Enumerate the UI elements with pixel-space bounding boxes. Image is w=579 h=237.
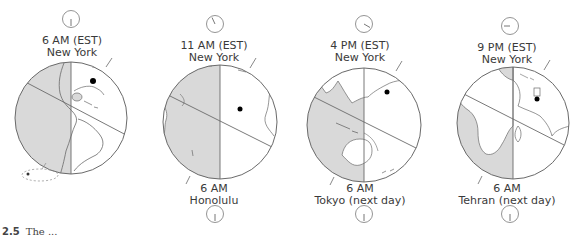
- globe-panel-11am: 11 AM (EST) New York 6 AM Honolulu: [142, 0, 286, 237]
- globe-panel-4pm: 4 PM (EST) New York 6 AM Tokyo (next day…: [288, 0, 432, 237]
- top-label: 11 AM (EST) New York: [142, 40, 286, 64]
- clock-icon-top: [61, 9, 81, 29]
- figure-caption: 2.5The ...: [2, 226, 57, 237]
- top-city: New York: [0, 47, 144, 59]
- top-label: 9 PM (EST) New York: [435, 42, 579, 66]
- top-city: New York: [288, 52, 432, 64]
- globe-pacific: [162, 64, 278, 180]
- clock-icon-bottom: [354, 204, 374, 224]
- globe-americas: [14, 61, 128, 175]
- globe-africa-asia: [456, 66, 570, 180]
- new-york-marker: [535, 97, 540, 102]
- antarctica-inset: [20, 165, 60, 185]
- new-york-marker: [238, 107, 243, 112]
- caption-text: The ...: [26, 226, 58, 237]
- caption-number: 2.5: [2, 226, 20, 237]
- clock-icon-bottom: [205, 204, 225, 224]
- globe-panel-9pm: 9 PM (EST) New York 6 AM Tehran (next da…: [435, 0, 579, 237]
- top-label: 4 PM (EST) New York: [288, 40, 432, 64]
- globe-panel-6am: 6 AM (EST) New York: [0, 0, 144, 237]
- clock-icon-top: [500, 16, 520, 36]
- top-label: 6 AM (EST) New York: [0, 35, 144, 59]
- new-york-marker: [90, 78, 96, 84]
- clock-icon-bottom: [500, 204, 520, 224]
- top-city: New York: [142, 52, 286, 64]
- new-york-marker: [385, 90, 390, 95]
- clock-icon-top: [354, 14, 374, 34]
- globe-east-asia: [306, 67, 422, 183]
- clock-icon-top: [205, 14, 225, 34]
- top-city: New York: [435, 54, 579, 66]
